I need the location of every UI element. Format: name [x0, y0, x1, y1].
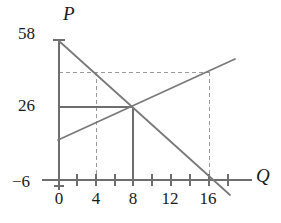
- x-tick-label-8: 8: [126, 190, 140, 207]
- x-tick-label-12: 12: [159, 190, 181, 207]
- supply-and-demand-graph: P Q 58 26 −6 0 4 8 12 16: [0, 0, 281, 223]
- x-axis-label: Q: [256, 166, 270, 185]
- y-axis-label: P: [63, 4, 75, 23]
- supply-curve: [58, 59, 235, 140]
- plot-area: [0, 0, 281, 223]
- x-tick-label-16: 16: [197, 190, 219, 207]
- axis-lines: [42, 40, 252, 190]
- y-tick-label-negative-6: −6: [12, 173, 30, 190]
- x-tick-label-4: 4: [89, 190, 103, 207]
- dashed-guides: [59, 72, 210, 180]
- demand-curve: [59, 41, 230, 195]
- y-tick-label-26: 26: [18, 97, 35, 114]
- x-tick-label-0: 0: [52, 190, 66, 207]
- y-tick-label-58: 58: [18, 25, 35, 42]
